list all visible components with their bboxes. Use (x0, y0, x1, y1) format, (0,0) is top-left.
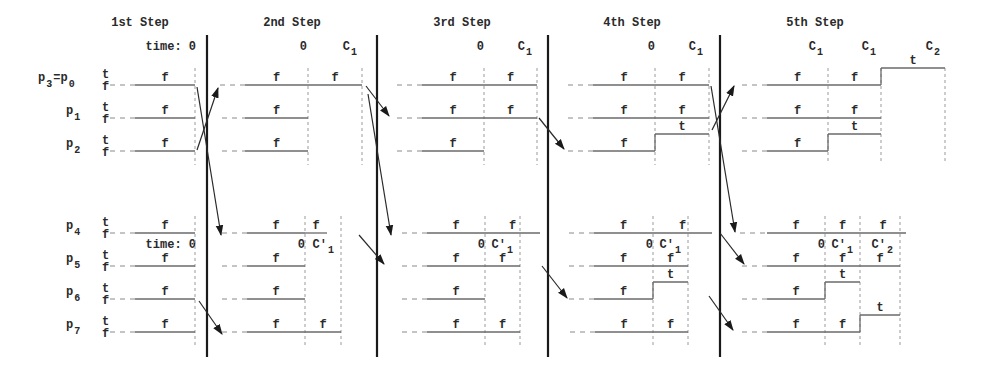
signal-value: f (452, 318, 459, 332)
signal-value: f (678, 104, 685, 118)
step-title: 2nd Step (263, 16, 321, 30)
signal-value: f (319, 318, 326, 332)
signal-value: f (839, 219, 846, 233)
signal-value: f (667, 252, 674, 266)
signal-value: f (620, 71, 627, 85)
signal-value: f (507, 104, 514, 118)
execution-steps-diagram: 1st Step2nd Step3rd Step4th Step5th Step… (0, 0, 999, 377)
signal-value: t (678, 120, 685, 134)
message-arrow (712, 86, 734, 130)
false-level-label: f (102, 294, 109, 308)
signal-value: f (161, 219, 168, 233)
signal-value: f (620, 104, 627, 118)
time-label: time: 0 (146, 40, 196, 54)
signal-value: f (272, 285, 279, 299)
signal-value: f (161, 252, 168, 266)
signal-value: f (449, 104, 456, 118)
signal-value: f (794, 71, 801, 85)
signal-value: t (839, 268, 846, 282)
signal-value: f (879, 219, 886, 233)
process-label: p3=p0 (38, 71, 75, 90)
signal-value: f (839, 318, 846, 332)
time-label: C1 (862, 40, 876, 58)
time-labels: time: 00C10C10C1C1C1C2time: 00C′10C′10C′… (146, 40, 940, 256)
time-label: 0 (648, 40, 655, 54)
step-title: 4th Step (603, 16, 661, 30)
time-label: C1 (518, 40, 532, 58)
message-arrow (542, 266, 567, 298)
signal-value: f (449, 137, 456, 151)
signal-value: f (273, 137, 280, 151)
false-level-label: f (102, 261, 109, 275)
time-label: C1 (809, 40, 823, 58)
signal-value: f (792, 219, 799, 233)
signal-value: f (449, 71, 456, 85)
signal-value: f (678, 71, 685, 85)
signal-value: f (792, 252, 799, 266)
signal-value: f (667, 318, 674, 332)
step-title: 5th Step (786, 16, 844, 30)
signal-value: f (272, 318, 279, 332)
signal-value: f (794, 104, 801, 118)
signal-value: t (909, 54, 916, 68)
signal-value: f (794, 137, 801, 151)
signal-value: f (273, 104, 280, 118)
message-arrow (720, 233, 744, 264)
time-label: C1 (689, 40, 703, 58)
process-labels: p3=p0tfp1tfp2tfp4tfp5tfp6tfp7tf (38, 68, 109, 341)
signal-value: f (272, 252, 279, 266)
signal-value: f (851, 104, 858, 118)
signal-value: f (876, 252, 883, 266)
process-label: p2 (66, 137, 80, 156)
process-label: p6 (66, 285, 80, 304)
time-label: C′1 (313, 238, 334, 256)
false-level-label: f (102, 228, 109, 242)
signal-value: f (620, 318, 627, 332)
process-label: p5 (66, 252, 80, 271)
signal-value: f (161, 137, 168, 151)
message-arrow (197, 87, 221, 235)
signal-value: t (851, 120, 858, 134)
time-label: 0 (818, 238, 825, 252)
signal-value: f (273, 71, 280, 85)
time-markers (195, 68, 945, 345)
signal-value: f (499, 318, 506, 332)
signal-timelines: fffffffffffffffffffffffffffffffffftfffff… (110, 54, 945, 332)
message-arrow (199, 301, 222, 334)
signal-value: f (161, 104, 168, 118)
signal-value: f (509, 219, 516, 233)
signal-value: f (620, 219, 627, 233)
time-label: 0 (478, 238, 485, 252)
time-label: 0 (477, 40, 484, 54)
false-level-label: f (102, 80, 109, 94)
signal-value: f (161, 71, 168, 85)
step-titles: 1st Step2nd Step3rd Step4th Step5th Step (111, 16, 844, 30)
process-label: p4 (66, 219, 80, 238)
signal-value: f (851, 71, 858, 85)
false-level-label: f (102, 146, 109, 160)
signal-value: f (792, 285, 799, 299)
signal-value: f (620, 137, 627, 151)
signal-value: f (792, 318, 799, 332)
step-title: 1st Step (111, 16, 169, 30)
signal-value: t (667, 268, 674, 282)
false-level-label: f (102, 113, 109, 127)
signal-value: f (272, 219, 279, 233)
step-separators (207, 35, 720, 357)
signal-value: f (499, 252, 506, 266)
signal-value: f (452, 252, 459, 266)
signal-value: f (452, 285, 459, 299)
process-label: p1 (66, 104, 80, 123)
signal-value: f (507, 71, 514, 85)
time-label: C2 (926, 40, 940, 58)
signal-value: f (839, 252, 846, 266)
signal-value: f (312, 219, 319, 233)
signal-value: f (161, 318, 168, 332)
process-label: p7 (66, 318, 80, 337)
message-arrow (539, 118, 564, 149)
time-label: 0 (298, 238, 305, 252)
time-label: 0 (646, 238, 653, 252)
false-level-label: f (102, 327, 109, 341)
time-label: C1 (343, 40, 357, 58)
message-arrow (359, 235, 384, 264)
